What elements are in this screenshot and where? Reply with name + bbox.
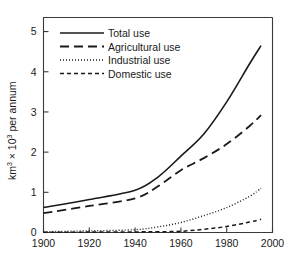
y-axis-label: km3 × 103 per annum — [6, 81, 18, 180]
y-tick-label: 3 — [31, 106, 37, 118]
x-tick-label: 1960 — [169, 237, 193, 249]
y-axis-label-tail: per annum — [6, 81, 18, 134]
x-tick-label: 1940 — [123, 237, 147, 249]
legend-label-3: Domestic use — [108, 68, 172, 80]
x-tick-label: 1920 — [78, 237, 102, 249]
y-axis-label-text: km3 × 103 per annum — [6, 81, 18, 180]
x-tick-label: 2000 — [261, 237, 285, 249]
legend-label-2: Industrial use — [108, 54, 171, 66]
series-line-1 — [44, 115, 262, 213]
series-line-2 — [44, 188, 262, 231]
chart-legend: Total useAgricultural useIndustrial useD… — [60, 27, 181, 80]
y-tick-label: 2 — [31, 146, 37, 158]
y-axis-label-times: × 10 — [6, 138, 18, 162]
x-tick-label: 1980 — [215, 237, 239, 249]
x-axis-ticks: 190019201940196019802000 — [32, 228, 285, 249]
y-axis-ticks: 012345 — [31, 25, 49, 238]
y-tick-label: 1 — [31, 186, 37, 198]
legend-label-0: Total use — [108, 27, 150, 39]
water-use-line-chart: 012345 190019201940196019802000 km3 × 10… — [0, 0, 293, 265]
y-tick-label: 5 — [31, 25, 37, 37]
y-tick-label: 4 — [31, 66, 37, 78]
legend-label-1: Agricultural use — [108, 41, 181, 53]
chart-figure: 012345 190019201940196019802000 km3 × 10… — [0, 0, 293, 265]
x-tick-label: 1900 — [32, 237, 56, 249]
y-axis-label-base: km — [6, 166, 18, 180]
series-line-3 — [44, 219, 262, 232]
